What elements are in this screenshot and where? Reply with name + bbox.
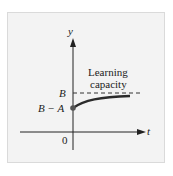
- x-axis-arrow-icon: [137, 129, 146, 135]
- annotation-line2: capacity: [90, 79, 127, 90]
- initial-point: [70, 105, 76, 111]
- annotation-line1: Learning: [88, 67, 128, 78]
- tick-label-B: B: [59, 88, 66, 99]
- y-axis-label: y: [68, 26, 73, 37]
- learning-curve: [73, 96, 130, 108]
- x-axis-label: t: [147, 126, 150, 137]
- graph-canvas: [0, 0, 173, 176]
- origin-label: 0: [62, 135, 68, 146]
- y-axis-arrow-icon: [70, 38, 76, 47]
- tick-label-B-minus-A: B − A: [38, 103, 64, 114]
